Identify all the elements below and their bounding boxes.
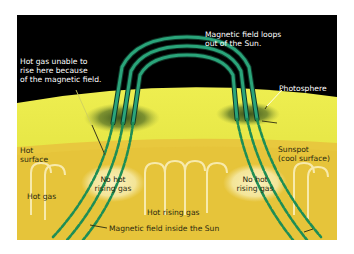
sunspot-diagram: Hot gas unable to rise here because of t…: [17, 15, 337, 240]
diagram-artwork: [17, 15, 337, 240]
label-line: (cool surface): [278, 154, 330, 163]
label-hot-gas-blocked: Hot gas unable to rise here because of t…: [20, 57, 101, 84]
label-line: out of the Sun.: [205, 39, 281, 48]
label-hot-gas: Hot gas: [27, 192, 56, 201]
label-line: Hot gas unable to: [20, 57, 101, 66]
label-hot-surface: Hot surface: [20, 146, 48, 164]
label-no-hot-right: No hot rising gas: [224, 175, 286, 193]
label-field-inside: Magnetic field inside the Sun: [109, 224, 219, 233]
label-field-loops: Magnetic field loops out of the Sun.: [205, 30, 281, 48]
label-line: of the magnetic field.: [20, 75, 101, 84]
label-line: Hot: [20, 146, 48, 155]
label-hot-rising-gas: Hot rising gas: [147, 208, 200, 217]
label-line: rise here because: [20, 66, 101, 75]
label-line: Magnetic field loops: [205, 30, 281, 39]
label-no-hot-left: No hot rising gas: [82, 175, 144, 193]
label-line: rising gas: [82, 184, 144, 193]
label-line: rising gas: [224, 184, 286, 193]
label-line: surface: [20, 155, 48, 164]
label-line: Sunspot: [278, 145, 330, 154]
label-line: No hot: [82, 175, 144, 184]
label-sunspot: Sunspot (cool surface): [278, 145, 330, 163]
label-photosphere: Photosphere: [279, 84, 327, 93]
label-line: No hot: [224, 175, 286, 184]
